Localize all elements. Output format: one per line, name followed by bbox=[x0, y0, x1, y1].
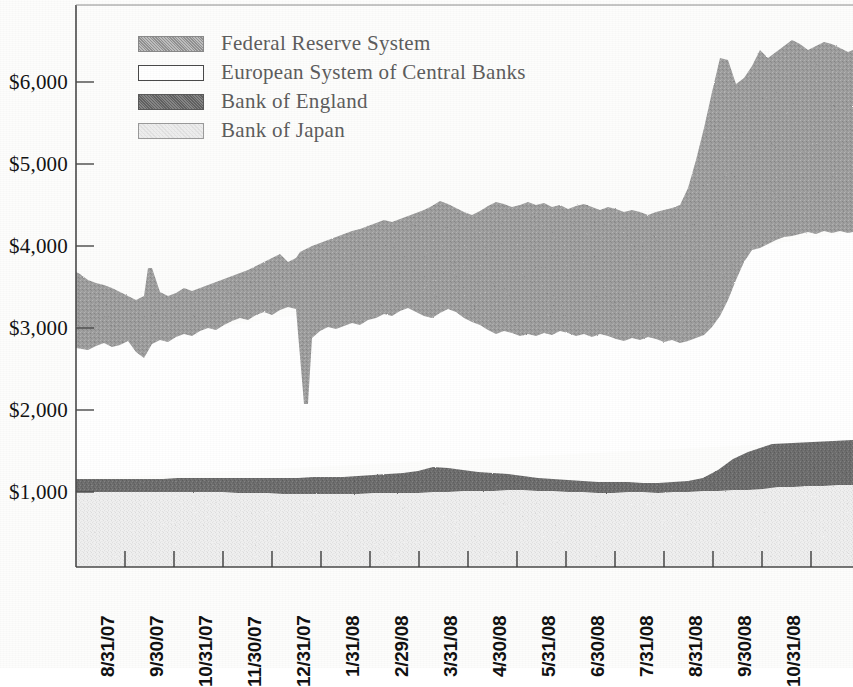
x-tick-label-11: 7/31/08 bbox=[636, 616, 658, 677]
legend-item-federal-reserve-system: Federal Reserve System bbox=[138, 30, 526, 57]
legend-item-european-system-of-central-banks: European System of Central Banks bbox=[138, 59, 526, 86]
legend-swatch-european-system-of-central-banks bbox=[138, 65, 204, 81]
legend-item-bank-of-england: Bank of England bbox=[138, 88, 526, 115]
x-tick-label-6: 2/29/08 bbox=[391, 616, 413, 677]
x-tick-label-14: 10/31/08 bbox=[783, 615, 805, 687]
area-bank-of-japan bbox=[76, 485, 853, 567]
x-tick-label-13: 9/30/08 bbox=[734, 616, 756, 677]
x-tick-label-2: 10/31/07 bbox=[195, 615, 217, 687]
x-tick-label-10: 6/30/08 bbox=[587, 616, 609, 677]
legend-swatch-federal-reserve-system bbox=[138, 36, 204, 52]
legend-swatch-bank-of-england bbox=[138, 94, 204, 110]
legend-label-european-system-of-central-banks: European System of Central Banks bbox=[221, 60, 526, 85]
x-tick-label-8: 4/30/08 bbox=[489, 616, 511, 677]
y-tick-label-5000: $5,000 bbox=[0, 152, 68, 177]
x-tick-label-12: 8/31/08 bbox=[685, 616, 707, 677]
x-tick-label-1: 9/30/07 bbox=[146, 616, 168, 677]
x-tick-label-9: 5/31/08 bbox=[538, 616, 560, 677]
legend-item-bank-of-japan: Bank of Japan bbox=[138, 117, 526, 144]
y-tick-label-2000: $2,000 bbox=[0, 398, 68, 423]
x-tick-label-3: 11/30/07 bbox=[244, 616, 266, 687]
y-tick-label-3000: $3,000 bbox=[0, 316, 68, 341]
x-tick-label-4: 12/31/07 bbox=[293, 615, 315, 687]
legend-label-bank-of-england: Bank of England bbox=[221, 89, 368, 114]
y-tick-label-6000: $6,000 bbox=[0, 70, 68, 95]
x-tick-label-0: 8/31/07 bbox=[97, 616, 119, 677]
y-tick-label-1000: $1,000 bbox=[0, 480, 68, 505]
legend-swatch-bank-of-japan bbox=[138, 123, 204, 139]
y-tick-label-4000: $4,000 bbox=[0, 234, 68, 259]
legend-label-federal-reserve-system: Federal Reserve System bbox=[221, 31, 431, 56]
legend-label-bank-of-japan: Bank of Japan bbox=[221, 118, 345, 143]
chart-legend: Federal Reserve System European System o… bbox=[138, 30, 526, 146]
x-tick-label-7: 3/31/08 bbox=[440, 616, 462, 677]
x-tick-label-5: 1/31/08 bbox=[342, 616, 364, 677]
